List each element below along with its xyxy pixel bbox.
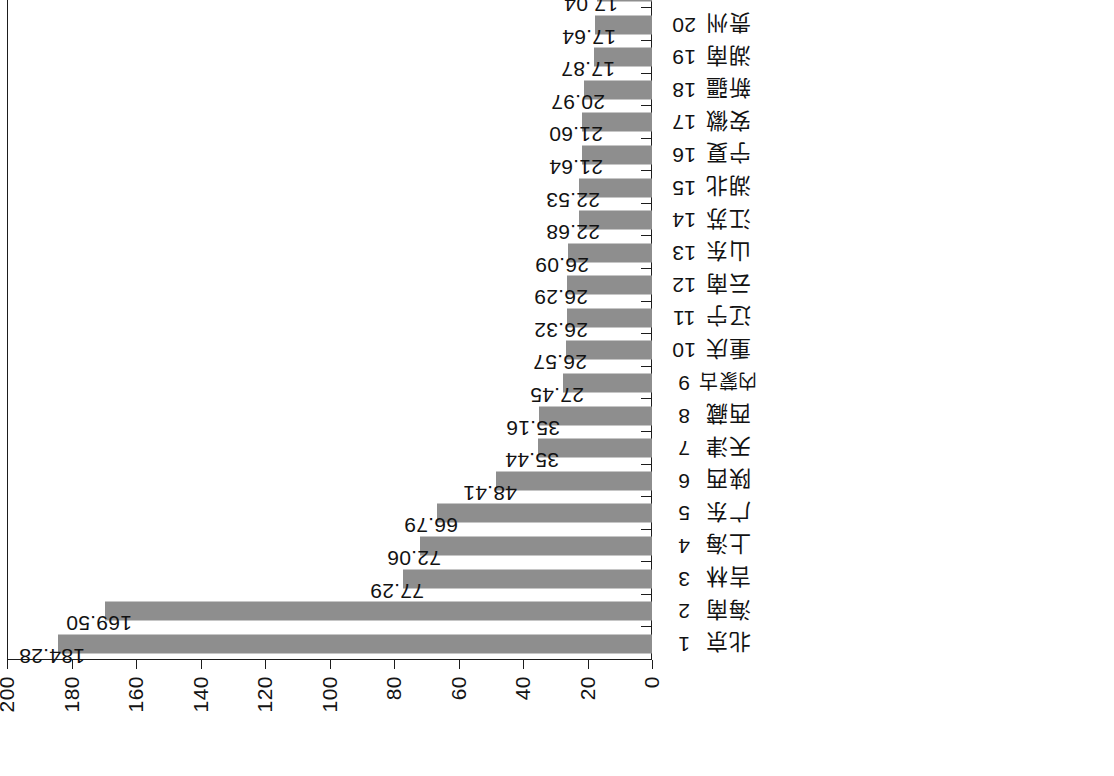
bar-value-label: 35.44 xyxy=(505,448,559,472)
bar-value-label: 184.28 xyxy=(19,644,85,668)
value-axis-tick xyxy=(588,660,589,669)
category-index-label: 21 xyxy=(672,0,696,13)
value-axis-tick-label: 0 xyxy=(640,676,664,688)
category-axis-tick xyxy=(641,301,652,302)
value-axis-tick-label: 120 xyxy=(253,676,277,713)
bar-value-label: 20.97 xyxy=(551,90,605,114)
bar-value-label: 17.64 xyxy=(562,25,616,49)
bar-value-label: 26.32 xyxy=(534,318,588,342)
value-axis-tick-label: 200 xyxy=(0,676,19,713)
category-axis-tick xyxy=(641,464,652,465)
bar-value-label: 21.64 xyxy=(549,155,603,179)
value-axis-tick-label: 40 xyxy=(511,676,535,700)
bar xyxy=(58,634,652,653)
bar-slot: 17.64 xyxy=(7,8,652,41)
bar-value-label: 21.60 xyxy=(549,122,603,146)
category-axis-tick xyxy=(641,73,652,74)
bar-value-label: 169.50 xyxy=(66,611,132,635)
category-axis-tick xyxy=(641,203,652,204)
bar-value-label: 27.45 xyxy=(530,383,584,407)
bar-slot: 17.04 xyxy=(7,0,652,8)
value-axis: 020406080100120140160180200 xyxy=(7,660,652,752)
category-axis-tick xyxy=(641,170,652,171)
bar-series: 184.28169.5077.2972.0666.7948.4135.4435.… xyxy=(7,0,652,660)
value-axis-tick-label: 80 xyxy=(382,676,406,700)
bar-value-label: 17.87 xyxy=(561,57,615,81)
bar xyxy=(496,471,652,490)
bar xyxy=(420,536,652,555)
category-axis-tick xyxy=(641,7,652,8)
bar-value-label: 26.29 xyxy=(534,285,588,309)
bar-value-label: 72.06 xyxy=(387,546,441,570)
category-axis-tick xyxy=(641,105,652,106)
category-axis-tick xyxy=(641,398,652,399)
bar-slot: 17.87 xyxy=(7,41,652,74)
value-axis-tick-label: 180 xyxy=(60,676,84,713)
bar xyxy=(403,569,652,588)
bar-slot: 169.50 xyxy=(7,595,652,628)
category-axis-tick xyxy=(641,626,652,627)
category-axis-tick xyxy=(641,561,652,562)
bar-value-label: 35.16 xyxy=(506,416,560,440)
value-axis-tick xyxy=(652,660,653,669)
value-axis-tick xyxy=(523,660,524,669)
bar-slot: 20.97 xyxy=(7,74,652,107)
category-axis-ticks xyxy=(652,0,663,660)
value-axis-tick xyxy=(7,660,8,669)
bar-value-label: 26.57 xyxy=(533,351,587,375)
chart-page: 020406080100120140160180200 184.28169.50… xyxy=(0,0,1114,776)
bar-value-label: 48.41 xyxy=(463,481,517,505)
category-axis-tick xyxy=(641,333,652,334)
bar-slot: 72.06 xyxy=(7,530,652,563)
value-axis-tick-label: 140 xyxy=(189,676,213,713)
category-axis-tick xyxy=(641,431,652,432)
category-axis-tick xyxy=(641,235,652,236)
bar-value-label: 26.09 xyxy=(535,253,589,277)
bar xyxy=(437,504,652,523)
bar-value-label: 66.79 xyxy=(404,513,458,537)
rotated-chart-stage: 020406080100120140160180200 184.28169.50… xyxy=(5,0,1109,752)
category-axis-tick xyxy=(641,496,652,497)
category-axis-tick xyxy=(641,40,652,41)
value-axis-tick xyxy=(201,660,202,669)
category-axis-labels: 1北京2海南3吉林4上海5广东6陕西7天津8西藏9内蒙古10重庆11辽宁12云南… xyxy=(663,0,757,660)
category-name-label: 四川 xyxy=(706,0,751,15)
category-axis-tick xyxy=(641,138,652,139)
value-axis-tick xyxy=(265,660,266,669)
bar-value-label: 77.29 xyxy=(370,579,424,603)
category-axis-tick xyxy=(641,366,652,367)
value-axis-tick-label: 60 xyxy=(447,676,471,700)
category-axis-tick xyxy=(641,594,652,595)
value-axis-tick xyxy=(459,660,460,669)
value-axis-tick-label: 20 xyxy=(576,676,600,700)
category-axis-tick xyxy=(641,529,652,530)
bar-value-label: 22.68 xyxy=(546,220,600,244)
bar xyxy=(105,602,652,621)
bar-value-label: 22.53 xyxy=(546,188,600,212)
value-axis-tick-label: 100 xyxy=(318,676,342,713)
bar-value-label: 17.04 xyxy=(564,0,618,16)
bar-slot: 77.29 xyxy=(7,562,652,595)
value-axis-tick-label: 160 xyxy=(124,676,148,713)
category-axis-tick xyxy=(641,659,652,660)
category-label-group: 21四川 xyxy=(663,0,751,8)
value-axis-tick xyxy=(330,660,331,669)
bar-slot: 66.79 xyxy=(7,497,652,530)
category-axis-tick xyxy=(641,268,652,269)
value-axis-tick xyxy=(136,660,137,669)
value-axis-tick xyxy=(394,660,395,669)
